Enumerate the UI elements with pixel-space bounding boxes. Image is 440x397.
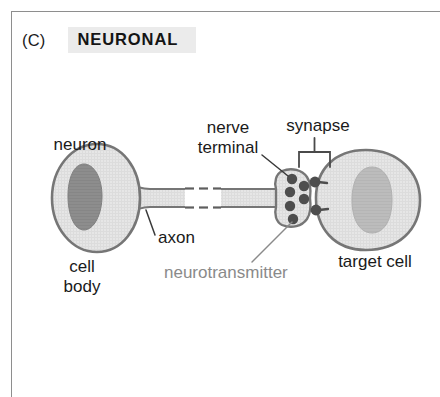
figure-panel-c-neuronal: (C) NEURONAL — [0, 0, 440, 397]
label-target-cell: target cell — [338, 252, 412, 271]
leader-line-neurotransmitter — [252, 222, 292, 262]
neuron-nucleus — [68, 164, 102, 230]
label-cell-body-line1: cell — [69, 257, 95, 276]
label-neuron: neuron — [54, 135, 107, 154]
target-cell-shape — [316, 150, 420, 250]
synapse-bracket — [299, 138, 330, 167]
target-cell-nucleus — [352, 167, 392, 233]
label-nerve-terminal-line2: terminal — [198, 138, 258, 157]
label-neurotransmitter: neurotransmitter — [164, 263, 288, 282]
label-synapse: synapse — [286, 116, 349, 135]
label-cell-body-line2: body — [64, 277, 101, 296]
label-nerve-terminal-line1: nerve — [207, 118, 250, 137]
label-axon: axon — [158, 228, 195, 247]
neuron-cell-body — [52, 144, 140, 252]
neuronal-signaling-diagram: neuron cell body axon nerve terminal syn… — [0, 0, 440, 397]
